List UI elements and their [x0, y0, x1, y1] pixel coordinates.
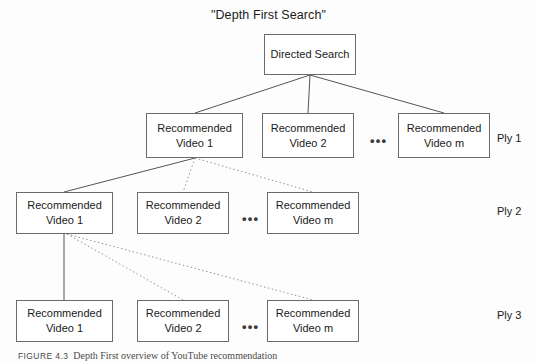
- figure-caption-text: Depth First overview of YouTube recommen…: [73, 350, 277, 361]
- ellipsis-ply3: •••: [242, 320, 259, 333]
- diagram-title: "Depth First Search": [0, 8, 537, 22]
- ply2-video1-to-ply3-video2: [67, 234, 183, 300]
- node-ply2-video-2[interactable]: RecommendedVideo 2: [137, 192, 229, 234]
- node-ply2-video-3[interactable]: RecommendedVideo m: [267, 192, 359, 234]
- root-to-ply1-videom: [310, 75, 444, 113]
- node-label-line2: Video 1: [46, 321, 83, 336]
- ellipsis-ply2: •••: [242, 212, 259, 225]
- figure-caption: FIGURE 4.3Depth First overview of YouTub…: [18, 350, 518, 361]
- ply-label-3: Ply 3: [497, 309, 521, 321]
- node-label-line2: Video m: [293, 321, 333, 336]
- figure-container: "Depth First Search" Directed SearchReco…: [0, 0, 537, 363]
- node-label-line1: Recommended: [27, 198, 102, 213]
- node-ply1-video-2[interactable]: RecommendedVideo 2: [262, 113, 354, 158]
- node-label-line1: Recommended: [157, 121, 232, 136]
- node-label-line2: Video 2: [164, 321, 201, 336]
- ply-label-1: Ply 1: [497, 132, 521, 144]
- node-label-line2: Video m: [293, 213, 333, 228]
- ellipsis-ply1: •••: [370, 134, 387, 147]
- node-ply1-video-3[interactable]: RecommendedVideo m: [398, 113, 490, 158]
- ply2-video1-to-ply3-videom: [67, 234, 313, 300]
- node-label-line2: Video 1: [46, 213, 83, 228]
- node-label-line1: Recommended: [407, 121, 482, 136]
- ply1-video1-to-ply2-video2: [183, 158, 195, 192]
- node-label-line1: Recommended: [146, 198, 221, 213]
- node-ply2-video-1[interactable]: RecommendedVideo 1: [16, 192, 113, 234]
- root-to-ply1-video1: [195, 75, 310, 113]
- node-label-line1: Recommended: [276, 198, 351, 213]
- node-directed-search[interactable]: Directed Search: [264, 34, 356, 75]
- ply1-video1-to-ply2-video1: [64, 158, 195, 192]
- node-ply3-video-3[interactable]: RecommendedVideo m: [267, 300, 359, 342]
- node-label-line1: Recommended: [146, 306, 221, 321]
- node-ply3-video-2[interactable]: RecommendedVideo 2: [137, 300, 229, 342]
- node-label-line1: Directed Search: [271, 47, 350, 62]
- figure-caption-number: FIGURE 4.3: [18, 351, 68, 361]
- node-label-line1: Recommended: [271, 121, 346, 136]
- node-label-line2: Video 2: [289, 136, 326, 151]
- node-label-line2: Video 2: [164, 213, 201, 228]
- ply1-video1-to-ply2-videom: [195, 158, 313, 192]
- node-label-line2: Video 1: [176, 136, 213, 151]
- node-ply1-video-1[interactable]: RecommendedVideo 1: [146, 113, 243, 158]
- node-label-line2: Video m: [424, 136, 464, 151]
- node-label-line1: Recommended: [276, 306, 351, 321]
- ply-label-2: Ply 2: [497, 205, 521, 217]
- root-to-ply1-video2: [308, 75, 310, 113]
- node-label-line1: Recommended: [27, 306, 102, 321]
- node-ply3-video-1[interactable]: RecommendedVideo 1: [16, 300, 113, 342]
